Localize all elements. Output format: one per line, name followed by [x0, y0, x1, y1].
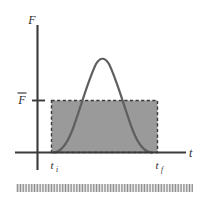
average-force-rectangle: [52, 101, 158, 153]
t-final-subscript: f: [161, 165, 164, 174]
t-initial-label: t: [50, 159, 54, 171]
x-axis-label: t: [189, 146, 193, 160]
y-axis-label: F: [27, 13, 36, 27]
hatch-band: [16, 184, 193, 192]
force-time-figure: F t F t i t f: [0, 0, 209, 197]
impulse-diagram-svg: F t F t i t f: [0, 0, 209, 197]
average-force-label: F: [17, 93, 26, 107]
t-initial-subscript: i: [56, 165, 58, 174]
t-final-label: t: [155, 159, 159, 171]
